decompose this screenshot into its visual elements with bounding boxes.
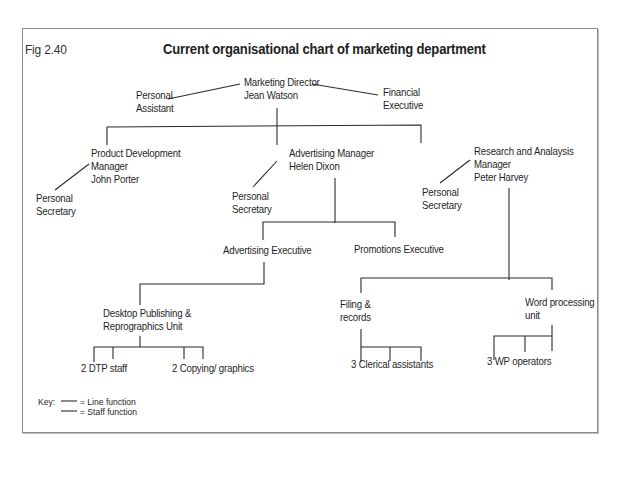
node-label: 2 Copying/ graphics (172, 362, 254, 375)
node-label-line1: Personal (36, 192, 76, 205)
node-title-cont: Manager (91, 160, 180, 173)
node-clerical-assistants: 3 Clerical assistants (351, 358, 433, 371)
node-marketing-director: Marketing Director Jean Watson (244, 76, 320, 102)
node-label: 2 DTP staff (81, 362, 127, 375)
node-person: Jean Watson (244, 89, 320, 102)
key-staff-function: = Staff function (80, 406, 137, 417)
node-person: Helen Dixon (289, 160, 374, 173)
node-label-line1: Personal (136, 89, 174, 102)
node-label-line2: unit (525, 309, 595, 322)
node-advertising-executive: Advertising Executive (223, 244, 311, 257)
node-dtp-reprographics-unit: Desktop Publishing & Reprographics Unit (103, 307, 191, 333)
node-advertising-manager: Advertising Manager Helen Dixon (289, 147, 374, 173)
node-personal-assistant: Personal Assistant (136, 89, 174, 115)
node-label: 3 WP operators (487, 355, 551, 368)
node-title: Promotions Executive (354, 243, 444, 256)
node-label-line1: Filing & (340, 298, 371, 311)
node-person: John Porter (91, 173, 180, 186)
node-label-line2: records (340, 311, 371, 324)
node-title: Research and Analaysis (474, 145, 574, 158)
node-label-line2: Secretary (422, 199, 462, 212)
node-label-line2: Secretary (232, 203, 272, 216)
node-label-line2: Executive (383, 99, 423, 112)
key-label: Key: (38, 396, 55, 407)
node-person: Peter Harvey (474, 171, 574, 184)
node-label-line1: Personal (422, 186, 462, 199)
node-label-line2: Assistant (136, 102, 174, 115)
node-label-line2: Reprographics Unit (103, 320, 191, 333)
node-title: Advertising Executive (223, 244, 311, 257)
node-research-analysis-manager: Research and Analaysis Manager Peter Har… (474, 145, 574, 184)
node-title: Marketing Director (244, 76, 320, 89)
node-label: 3 Clerical assistants (351, 358, 433, 371)
node-word-processing-unit: Word processing unit (525, 296, 595, 322)
node-filing-records: Filing & records (340, 298, 371, 324)
node-pd-personal-secretary: Personal Secretary (36, 192, 76, 218)
figure-label: Fig 2.40 (25, 42, 67, 57)
node-dtp-staff: 2 DTP staff (81, 362, 127, 375)
node-label-line1: Word processing (525, 296, 595, 309)
node-title: Advertising Manager (289, 147, 374, 160)
node-adv-personal-secretary: Personal Secretary (232, 190, 272, 216)
node-financial-executive: Financial Executive (383, 86, 423, 112)
node-rm-personal-secretary: Personal Secretary (422, 186, 462, 212)
node-label-line2: Secretary (36, 205, 76, 218)
figure-title: Current organisational chart of marketin… (163, 41, 486, 58)
node-label-line1: Personal (232, 190, 272, 203)
node-label-line1: Desktop Publishing & (103, 307, 191, 320)
node-title-cont: Manager (474, 158, 574, 171)
node-wp-operators: 3 WP operators (487, 355, 551, 368)
node-label-line1: Financial (383, 86, 423, 99)
node-copying-graphics: 2 Copying/ graphics (172, 362, 254, 375)
node-promotions-executive: Promotions Executive (354, 243, 444, 256)
node-product-development-manager: Product Development Manager John Porter (91, 147, 180, 186)
node-title: Product Development (91, 147, 180, 160)
